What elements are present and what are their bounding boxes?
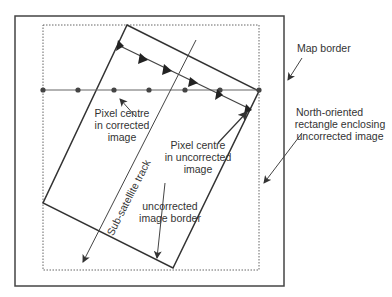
pixel-uncorrected-label-1: Pixel centre [158, 139, 238, 151]
pixel-uncorrected-label-2: in uncorrected [158, 151, 238, 163]
uncorrected-border-label-2: image border [135, 212, 205, 224]
pixel-uncorrected-label-3: image [158, 163, 238, 175]
uncorrected-border-label-1: uncorrected [135, 200, 205, 212]
north-rect-label-3: uncorrected image [290, 130, 390, 142]
map-border-label: Map border [297, 42, 351, 54]
pixel-corrected-label-2: in corrected [92, 119, 152, 131]
north-rect-label-1: North-oriented [296, 106, 363, 118]
map-border [15, 16, 284, 286]
pixel-corrected-label-3: image [92, 131, 152, 143]
north-rect-label-2: rectangle enclosing [290, 118, 390, 130]
pixel-corrected-label-1: Pixel centre [92, 107, 152, 119]
